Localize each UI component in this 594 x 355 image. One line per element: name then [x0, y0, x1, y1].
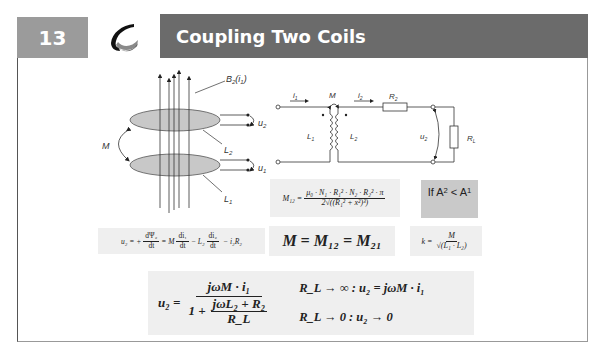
mutual-equality-formula: M = M₁₂ = M₂₁ [269, 226, 395, 256]
rl-label: RL [467, 134, 476, 144]
u2-load-formula: u₂ = jωM · i₁ 1 + jωL₂ + R₂R_L R_L → ∞ :… [148, 271, 474, 335]
u2-label: u2 [258, 118, 267, 129]
mutual-inductance-label: M [102, 141, 110, 151]
r2-label: R2 [389, 92, 398, 102]
u2-circuit-label: u2 [420, 132, 427, 142]
short-circuit-case: R_L → 0 : u₂ → 0 [299, 310, 424, 325]
m12-formula: M₁₂ = μ₀ · N₁ · R₁² · N₂ · R₂² · π2√((R₁… [270, 179, 400, 217]
i1-label: i1 [293, 92, 298, 101]
u2-induction-formula: u₂ = + dΨ₂dt = M di₁dt − L₂ di₂dt − i₂R₂ [98, 228, 265, 254]
m12-denominator: 2√((R₁² + x²)³) [319, 199, 370, 208]
page-title: Coupling Two Coils [160, 14, 588, 58]
slide-number: 13 [17, 17, 88, 58]
swirl-logo-icon [88, 17, 160, 58]
u1-label: u1 [258, 163, 266, 174]
coil1-label: L1 [224, 194, 232, 205]
l1-label: L1 [307, 132, 314, 142]
coil2-label: L2 [224, 145, 233, 156]
m12-lhs: M₁₂ = [283, 194, 303, 203]
m-label: M [329, 92, 336, 100]
field-label: B2(i1) [226, 74, 247, 85]
coupling-factor-formula: k = M√(L₁ · L₂) [410, 226, 482, 256]
open-circuit-case: R_L → ∞ : u₂ = jωM · i₁ [299, 281, 424, 296]
l2-label: L2 [350, 132, 357, 142]
area-condition-box: If A2 < A1 [421, 180, 478, 218]
coil-diagram: B2(i1) M L2 L1 u2 u1 [95, 68, 275, 228]
circuit-diagram: i1 M i2 R2 L1 L2 u2 RL [270, 92, 495, 172]
i2-label: i2 [358, 92, 363, 101]
